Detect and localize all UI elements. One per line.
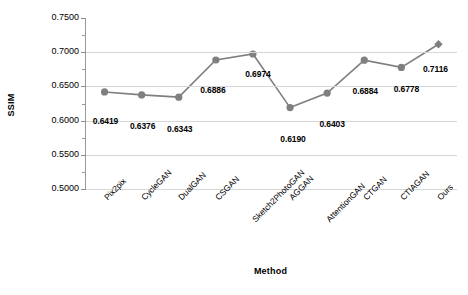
data-labels-layer: 0.64190.63760.63430.68860.69740.61900.64… — [85, 18, 456, 189]
y-axis-tick-labels: 0.75000.70000.65000.60000.55000.5000 — [33, 0, 79, 295]
y-tick-label: 0.5500 — [35, 150, 79, 159]
data-point-label: 0.7116 — [423, 64, 448, 74]
data-point-label: 0.6778 — [394, 84, 419, 94]
y-tick-label: 0.6000 — [35, 116, 79, 125]
data-point-label: 0.6886 — [200, 85, 225, 95]
y-tick-label: 0.7000 — [35, 47, 79, 56]
y-tick-label: 0.7500 — [35, 13, 79, 22]
data-point-label: 0.6403 — [319, 119, 344, 129]
x-axis-title: Method — [85, 266, 456, 276]
data-point-label: 0.6884 — [353, 86, 378, 96]
data-point-label: 0.6974 — [245, 69, 270, 79]
y-tick-label: 0.6500 — [35, 81, 79, 90]
ssim-comparison-line-chart: SSIM 0.75000.70000.65000.60000.55000.500… — [0, 0, 468, 295]
x-axis-category-labels: Pix2pixCycleGANDualGANCSGANSketch2PhotoG… — [85, 189, 456, 265]
data-point-label: 0.6343 — [167, 124, 192, 134]
data-point-label: 0.6419 — [93, 116, 118, 126]
data-point-label: 0.6190 — [280, 134, 305, 144]
y-tick-label: 0.5000 — [35, 184, 79, 193]
data-point-label: 0.6376 — [130, 121, 155, 131]
y-axis-title: SSIM — [6, 75, 16, 135]
